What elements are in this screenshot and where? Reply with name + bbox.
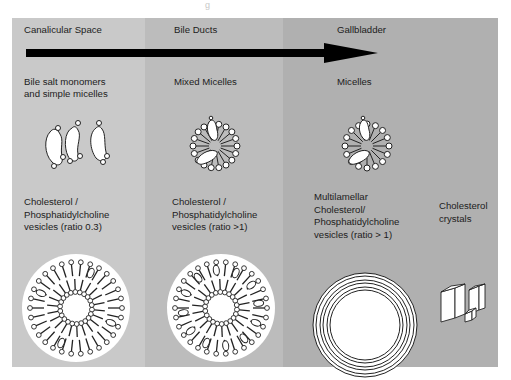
phospholipid-head xyxy=(234,303,239,308)
label-line: vesicles (ratio >1) xyxy=(172,221,257,234)
label-line: vesicles (ratio 0.3) xyxy=(24,221,109,234)
phospholipid-head xyxy=(265,306,270,311)
bile-salt-monomers-icon xyxy=(42,114,122,174)
cholesterol-crystals-icon xyxy=(439,280,499,330)
phospholipid-head xyxy=(181,333,186,338)
label-mixed-micelles: Mixed Micelles xyxy=(174,76,237,89)
label-vesicles-ratio-0-3: Cholesterol / Phosphatidylcholine vesicl… xyxy=(24,196,109,234)
phospholipid-head xyxy=(88,262,93,267)
phospholipid-head xyxy=(188,271,193,276)
phospholipid-head xyxy=(223,260,228,265)
phospholipid-head xyxy=(203,309,208,314)
phospholipid-head xyxy=(120,306,125,311)
label-line: Phosphatidylcholine xyxy=(24,209,109,222)
cholesterol-rich-vesicle-icon xyxy=(165,252,277,364)
label-line: crystals xyxy=(439,213,488,226)
label-line: Phosphatidylcholine xyxy=(314,216,399,229)
lipid-head xyxy=(191,135,197,141)
phospholipid-head xyxy=(214,260,219,265)
phospholipid-head xyxy=(261,287,266,292)
phospholipid-head xyxy=(181,279,186,284)
label-micelles: Micelles xyxy=(337,76,372,89)
phospholipid-head xyxy=(89,303,94,308)
label-line: vesicles (ratio > 1) xyxy=(314,229,399,242)
lipid-head xyxy=(191,151,197,157)
label-line: Multilamellar xyxy=(314,191,399,204)
phospholipid-head xyxy=(196,345,201,350)
phospholipid-head xyxy=(249,271,254,276)
bile-salt-head xyxy=(209,116,213,120)
phospholipid-head xyxy=(174,315,179,320)
lipid-head xyxy=(344,151,350,157)
lipid-head xyxy=(190,143,196,149)
phospholipid-head xyxy=(177,324,182,329)
lipid-head xyxy=(380,127,386,133)
bile-salt xyxy=(197,150,218,164)
label-multilamellar-vesicles: Multilamellar Cholesterol/ Phosphatidylc… xyxy=(314,191,399,241)
lipid-head xyxy=(223,162,229,168)
phospholipid-head xyxy=(256,279,261,284)
lipid-head xyxy=(233,135,239,141)
phospholipid-head xyxy=(111,279,116,284)
phospholipid-head xyxy=(78,260,83,265)
phospholipid-head xyxy=(204,349,209,354)
lipid-head xyxy=(372,123,378,129)
phospholipid-head xyxy=(218,290,223,295)
lipid-head xyxy=(201,124,207,130)
bile-lipid-diagram: Canalicular Space Bile Ducts Gallbladder… xyxy=(12,18,498,367)
phospholipid-head xyxy=(43,340,48,345)
phospholipid-head xyxy=(173,306,178,311)
lipid-head xyxy=(356,163,362,169)
phospholipid-head xyxy=(261,324,266,329)
lipid-head xyxy=(342,143,348,149)
phospholipid-head xyxy=(249,340,254,345)
phospholipid-head xyxy=(51,266,56,271)
phospholipid-head xyxy=(111,333,116,338)
title-fragment: g xyxy=(205,0,210,10)
lipid-head xyxy=(208,165,214,171)
phospholipid-head xyxy=(116,287,121,292)
phospholipid-head xyxy=(104,340,109,345)
phospholipid-head xyxy=(242,266,247,271)
multilamellar-vesicle-icon xyxy=(310,270,420,380)
phospholipid-head xyxy=(59,262,64,267)
lipid-head xyxy=(386,143,392,149)
label-line: Cholesterol / xyxy=(172,196,257,209)
phospholipid-head xyxy=(196,266,201,271)
phospholipid-head xyxy=(78,351,83,356)
lipid-head xyxy=(216,165,222,171)
phospholipid-head xyxy=(233,349,238,354)
lipid-head xyxy=(233,151,239,157)
phospholipid-head xyxy=(97,345,102,350)
phospholipid-head xyxy=(233,262,238,267)
label-line: Cholesterol xyxy=(439,200,488,213)
lipid-head xyxy=(384,151,390,157)
phospholipid-head xyxy=(32,324,37,329)
phospholipid-head xyxy=(213,290,218,295)
micelle-icon xyxy=(337,116,397,176)
lipid-head xyxy=(384,135,390,141)
lipid-head xyxy=(229,129,235,135)
label-bile-salt-monomers-1: Bile salt monomers xyxy=(24,76,106,89)
phospholipid-head xyxy=(119,296,124,301)
label-bile-salt-monomers-2: and simple micelles xyxy=(24,88,108,101)
phospholipid-head xyxy=(51,345,56,350)
phospholipid-head xyxy=(116,324,121,329)
phospholipid-head xyxy=(74,322,79,327)
phospholipid-head xyxy=(29,296,34,301)
phospholipid-head xyxy=(43,271,48,276)
phospholipid-head xyxy=(69,260,74,265)
phospholipid-head xyxy=(188,340,193,345)
lipid-head xyxy=(344,135,350,141)
phospholipid-head xyxy=(28,306,33,311)
phospholipid-head xyxy=(88,349,93,354)
label-vesicles-ratio-gt-1: Cholesterol / Phosphatidylcholine vesicl… xyxy=(172,196,257,234)
phospholipid-head xyxy=(204,262,209,267)
phospholipid-head xyxy=(58,309,63,314)
phospholipid-head xyxy=(214,351,219,356)
mixed-micelle-icon xyxy=(185,116,245,176)
phospholipid-head xyxy=(59,349,64,354)
label-line: Phosphatidylcholine xyxy=(172,209,257,222)
phospholipid-head xyxy=(177,287,182,292)
label-line: Cholesterol / xyxy=(24,196,109,209)
